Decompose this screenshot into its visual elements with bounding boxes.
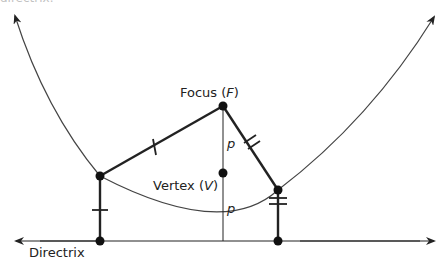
directrix-point-left [96,237,105,246]
distance-p-lower-label: p [227,202,235,215]
directrix-point-right [274,237,283,246]
distance-p-upper-label: p [227,137,235,150]
parabola-diagram [0,0,448,263]
tick-mark-single [153,139,156,155]
directrix-label: Directrix [29,246,85,259]
vertex-point [219,169,228,178]
curve-point-right [274,186,283,195]
curve-point-left [96,172,105,181]
focus-point [219,102,228,111]
focus-label: Focus (F) [180,86,239,99]
parabola-left-arm [15,16,100,176]
vertex-label: Vertex (V) [153,179,218,192]
segment-left-to-focus [100,106,223,176]
parabola-right-arm [278,17,434,190]
